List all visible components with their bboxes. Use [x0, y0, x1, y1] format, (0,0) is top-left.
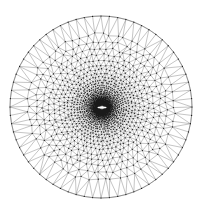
mesh-figure [0, 0, 206, 214]
mesh-canvas [0, 0, 206, 214]
mesh-slit-feature [98, 107, 107, 109]
center-slit-icon [98, 107, 107, 109]
